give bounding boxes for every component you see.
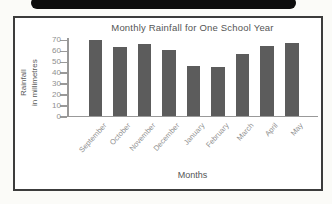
y-tick-label: 30	[15, 79, 61, 88]
y-tick-mark	[60, 62, 67, 64]
y-tick-label: 70	[15, 35, 61, 44]
y-tick-mark	[60, 116, 67, 118]
y-tick-mark	[60, 51, 67, 53]
y-tick-label: 20	[15, 90, 61, 99]
bar-february	[211, 67, 225, 116]
y-tick-label: 10	[15, 101, 61, 110]
bar-november	[138, 44, 152, 116]
bar-march	[236, 54, 250, 116]
bar-october	[113, 47, 127, 116]
chart-title: Monthly Rainfall for One School Year	[67, 22, 318, 33]
chart-frame: Monthly Rainfall for One School Year Rai…	[13, 16, 323, 191]
bar-december	[162, 50, 176, 116]
month-label-february: February	[204, 121, 231, 149]
bar-april	[260, 46, 274, 116]
bar-september	[89, 40, 103, 116]
y-axis-line	[67, 38, 69, 116]
month-label-may: May	[288, 121, 304, 138]
top-black-bar	[31, 0, 296, 9]
y-tick-label: 40	[15, 68, 61, 77]
y-tick-label: 50	[15, 57, 61, 66]
y-tick-mark	[60, 40, 67, 42]
month-label-april: April	[263, 121, 280, 138]
month-label-september: September	[77, 121, 108, 154]
x-axis-label: Months	[67, 170, 318, 180]
y-tick-label: 60	[15, 46, 61, 55]
month-label-march: March	[235, 121, 256, 143]
y-tick-mark	[60, 94, 67, 96]
y-tick-mark	[60, 83, 67, 85]
rainfall-bar-chart: Monthly Rainfall for One School Year Rai…	[15, 18, 321, 189]
y-tick-mark	[60, 105, 67, 107]
month-label-january: January	[182, 121, 207, 147]
bar-may	[285, 43, 299, 116]
bar-january	[187, 66, 201, 116]
month-label-october: October	[108, 121, 133, 147]
y-tick-mark	[60, 72, 67, 74]
y-tick-label: 0	[15, 112, 61, 121]
